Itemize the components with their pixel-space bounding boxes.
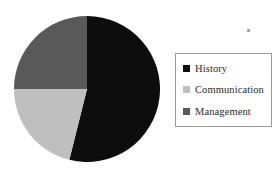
legend-swatch-history-icon <box>183 65 190 72</box>
legend-item-communication[interactable]: Communication <box>183 83 271 97</box>
legend-label-management: Management <box>195 106 251 117</box>
legend-item-management[interactable]: Management <box>183 104 271 118</box>
chart-canvas: History Communication Management <box>0 0 280 170</box>
legend-label-communication: Communication <box>195 84 264 95</box>
legend-item-history[interactable]: History <box>183 62 271 76</box>
legend-swatch-communication-icon <box>183 86 190 93</box>
legend-label-history: History <box>195 63 227 74</box>
legend-swatch-management-icon <box>183 108 190 115</box>
chart-legend: History Communication Management <box>175 53 272 127</box>
legend-list: History Communication Management <box>176 54 271 126</box>
pie-slices <box>14 16 160 162</box>
pie-slice-management[interactable] <box>14 16 87 89</box>
speck-mark-icon <box>247 29 250 32</box>
